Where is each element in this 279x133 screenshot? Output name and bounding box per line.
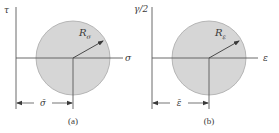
- caption-a: (a): [68, 116, 78, 126]
- panel-a-stress-circle: τ σ Rσ σ̄ (a): [4, 5, 132, 126]
- sigma-axis-label: σ: [125, 53, 132, 63]
- gamma-half-axis-label: γ/2: [134, 4, 148, 14]
- caption-b: (b): [204, 116, 215, 126]
- epsilon-bar-label: ε̄: [177, 98, 182, 108]
- panel-b-strain-circle: γ/2 ε Rε ε̄ (b): [134, 4, 268, 126]
- tau-axis-label: τ: [4, 5, 10, 15]
- sigma-bar-label: σ̄: [40, 98, 46, 108]
- mohr-circle-diagram: τ σ Rσ σ̄ (a) γ/2 ε Rε ε̄ (b): [0, 0, 279, 133]
- epsilon-axis-label: ε: [263, 53, 268, 63]
